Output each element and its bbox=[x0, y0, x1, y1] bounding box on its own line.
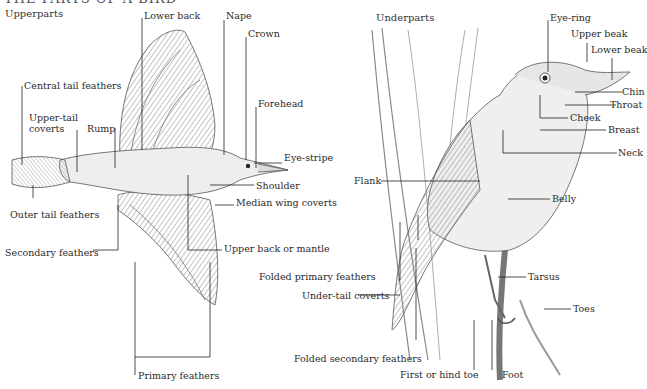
label-shoulder: Shoulder bbox=[256, 180, 300, 191]
label-throat: Throat bbox=[610, 99, 642, 110]
label-toes: Toes bbox=[573, 303, 595, 314]
flying-bird-drawing bbox=[12, 30, 288, 305]
label-breast: Breast bbox=[608, 124, 640, 135]
label-lower-beak: Lower beak bbox=[591, 44, 647, 55]
label-tarsus: Tarsus bbox=[528, 271, 560, 282]
label-under-tail-coverts: Under-tail coverts bbox=[302, 290, 389, 301]
label-primary-feathers: Primary feathers bbox=[138, 370, 219, 381]
label-secondary-feathers: Secondary feathers bbox=[5, 247, 99, 258]
label-crown: Crown bbox=[248, 28, 280, 39]
perched-bird-drawing bbox=[372, 28, 630, 380]
label-neck: Neck bbox=[618, 147, 643, 158]
label-upper-beak: Upper beak bbox=[571, 28, 627, 39]
label-belly: Belly bbox=[552, 193, 576, 204]
label-flank: Flank bbox=[354, 175, 381, 186]
label-nape: Nape bbox=[226, 10, 252, 21]
underparts-heading: Underparts bbox=[376, 12, 434, 23]
label-folded-primary-feathers: Folded primary feathers bbox=[259, 271, 376, 282]
label-eye-stripe: Eye-stripe bbox=[284, 152, 333, 163]
label-median-wing-coverts: Median wing coverts bbox=[236, 197, 337, 208]
label-upper-tail-coverts: Upper-tail coverts bbox=[29, 112, 79, 134]
label-eye-ring: Eye-ring bbox=[550, 12, 591, 23]
label-rump: Rump bbox=[87, 123, 115, 134]
label-folded-secondary-feathers: Folded secondary feathers bbox=[294, 353, 422, 364]
label-foot: Foot bbox=[502, 369, 523, 380]
label-chin: Chin bbox=[622, 86, 645, 97]
label-cheek: Cheek bbox=[570, 112, 600, 123]
label-lower-back: Lower back bbox=[144, 10, 200, 21]
label-outer-tail-feathers: Outer tail feathers bbox=[10, 209, 99, 220]
label-forehead: Forehead bbox=[258, 98, 303, 109]
upperparts-heading: Upperparts bbox=[5, 8, 63, 19]
label-first-or-hind-toe: First or hind toe bbox=[400, 369, 479, 380]
label-upper-back-or-mantle: Upper back or mantle bbox=[224, 243, 330, 254]
label-central-tail-feathers: Central tail feathers bbox=[24, 80, 121, 91]
